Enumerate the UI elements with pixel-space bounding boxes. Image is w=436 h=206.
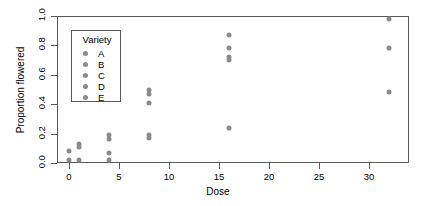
- legend-entry-label: A: [98, 48, 104, 59]
- legend-entry-b: B: [72, 59, 122, 70]
- x-axis-tick-label: 0: [66, 172, 71, 182]
- x-axis-tick-label: 30: [364, 172, 375, 182]
- data-point: [227, 46, 232, 51]
- data-point: [147, 100, 152, 105]
- data-point: [387, 16, 392, 21]
- legend-entry-label: B: [98, 59, 104, 70]
- legend-entry-d: D: [72, 81, 122, 92]
- data-point: [77, 144, 82, 149]
- legend-entry-label: D: [98, 81, 105, 92]
- legend-marker-icon: [83, 84, 88, 89]
- legend-entry-c: C: [72, 70, 122, 81]
- data-point: [387, 90, 392, 95]
- y-axis-tick-label: 0.4: [0, 98, 48, 108]
- legend-title: Variety: [72, 34, 122, 45]
- data-point: [227, 58, 232, 63]
- y-axis-tick-label: 0.6: [0, 69, 48, 79]
- y-axis-tick-label: 0.2: [0, 128, 48, 138]
- x-axis-tick-label: 10: [164, 172, 175, 182]
- data-point: [147, 136, 152, 141]
- data-point: [107, 150, 112, 155]
- data-point: [227, 125, 232, 130]
- y-axis-tick: [51, 163, 57, 164]
- legend-marker-icon: [83, 51, 88, 56]
- x-axis-title-text: Dose: [206, 186, 229, 197]
- data-point: [147, 91, 152, 96]
- y-axis-title-text: Proportion flowered: [15, 46, 26, 133]
- data-point: [107, 158, 112, 163]
- data-point: [107, 137, 112, 142]
- x-axis-tick-label: 20: [264, 172, 275, 182]
- legend-entry-e: E: [72, 92, 122, 103]
- legend-entry-label: C: [98, 70, 105, 81]
- legend-entry-a: A: [72, 48, 122, 59]
- y-axis-tick-label: 0.0: [0, 157, 48, 167]
- x-axis-tick-label: 5: [116, 172, 121, 182]
- data-point: [77, 158, 82, 163]
- x-axis-tick: [69, 163, 70, 169]
- x-axis-title: Dose: [0, 186, 436, 197]
- data-point: [227, 33, 232, 38]
- data-point: [67, 158, 72, 163]
- x-axis-tick-label: 15: [214, 172, 225, 182]
- scatter-plot-figure: Proportion flowered Dose 0.00.20.40.60.8…: [0, 0, 436, 206]
- y-axis-tick-label: 1.0: [0, 10, 48, 20]
- y-axis-tick-label: 0.8: [0, 39, 48, 49]
- x-axis-tick: [269, 163, 270, 169]
- legend-variety: Variety ABCDE: [71, 30, 121, 102]
- x-axis-tick-label: 25: [314, 172, 325, 182]
- x-axis-tick: [369, 163, 370, 169]
- x-axis-tick: [119, 163, 120, 169]
- legend-marker-icon: [83, 95, 88, 100]
- x-axis-tick: [219, 163, 220, 169]
- legend-entry-label: E: [98, 92, 104, 103]
- legend-marker-icon: [83, 62, 88, 67]
- x-axis-tick: [319, 163, 320, 169]
- legend-marker-icon: [83, 73, 88, 78]
- data-point: [387, 46, 392, 51]
- y-axis-title: Proportion flowered: [12, 16, 28, 163]
- x-axis-tick: [169, 163, 170, 169]
- data-point: [67, 149, 72, 154]
